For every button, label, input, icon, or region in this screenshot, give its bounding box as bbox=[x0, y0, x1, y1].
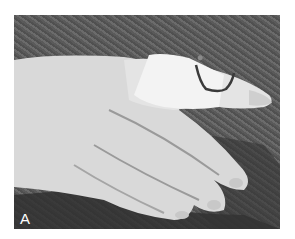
hand-photo: A bbox=[14, 15, 280, 229]
panel-label: A bbox=[20, 210, 30, 227]
hand-illustration bbox=[14, 15, 280, 229]
